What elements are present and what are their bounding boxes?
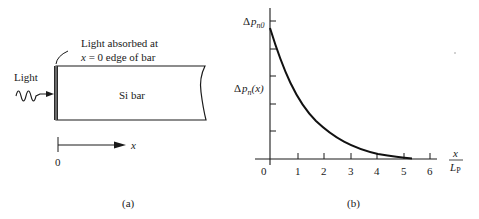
caption-b: (b) — [347, 197, 360, 210]
annotation-leader — [56, 51, 68, 64]
svg-text:5: 5 — [401, 165, 407, 177]
svg-text:1: 1 — [295, 165, 301, 177]
light-wave-icon — [16, 91, 48, 101]
svg-text:0: 0 — [261, 165, 267, 177]
x-direction-arrowhead-icon — [114, 142, 126, 149]
speck — [454, 52, 456, 54]
x-label-denominator: LP — [449, 161, 461, 175]
svg-text:4: 4 — [374, 165, 380, 177]
x-tick-labels: 0 1 2 3 4 5 6 — [261, 165, 433, 177]
axis-var-label: x — [130, 139, 136, 151]
svg-text:6: 6 — [427, 165, 433, 177]
si-bar-label: Si bar — [119, 89, 145, 101]
light-label: Light — [14, 71, 38, 83]
y-mid-label: Δpn(x) — [234, 82, 264, 97]
light-arrowhead-icon — [46, 91, 54, 97]
panel-b-chart: 0 1 2 3 4 5 6 Δpn0 Δpn(x) x LP (b) — [234, 8, 463, 210]
svg-text:2: 2 — [321, 165, 327, 177]
annotation-line-1: Light absorbed at — [81, 37, 158, 49]
svg-text:3: 3 — [348, 165, 354, 177]
figure-canvas: Light Light absorbed at x = 0 edge of ba… — [0, 0, 479, 219]
y-top-label: Δpn0 — [243, 15, 265, 30]
decay-curve — [270, 28, 412, 159]
x-label-numerator: x — [452, 147, 458, 159]
axis-origin-label: 0 — [55, 156, 61, 168]
caption-a: (a) — [122, 197, 135, 210]
annotation-line-2: x = 0 edge of bar — [80, 51, 156, 63]
panel-a: Light Light absorbed at x = 0 edge of ba… — [14, 37, 206, 210]
